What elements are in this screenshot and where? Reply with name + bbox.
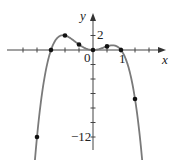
origin-label: 0 bbox=[84, 50, 91, 65]
y-tick-label-2: 2 bbox=[97, 27, 104, 42]
data-point bbox=[77, 42, 82, 47]
y-axis-arrow-icon bbox=[90, 13, 96, 21]
data-point bbox=[105, 44, 110, 49]
x-axis-label: x bbox=[161, 52, 168, 67]
data-point bbox=[63, 33, 68, 38]
y-tick-label-minus-12: −12 bbox=[71, 129, 91, 144]
data-point bbox=[35, 135, 40, 140]
y-axis-label: y bbox=[78, 8, 86, 23]
data-point bbox=[133, 97, 138, 102]
polynomial-graph: x y 0 1 2 −12 bbox=[0, 0, 181, 160]
x-tick-label-1: 1 bbox=[119, 51, 126, 66]
data-point bbox=[91, 48, 96, 53]
data-point bbox=[49, 48, 54, 53]
